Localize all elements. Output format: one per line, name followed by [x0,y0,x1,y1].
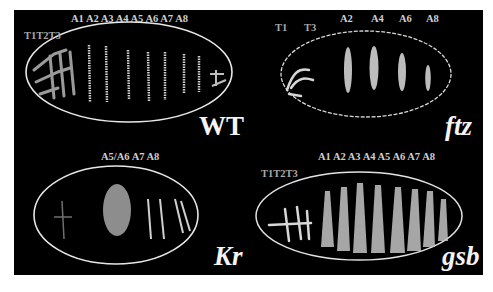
genotype-label: gsb [442,243,480,270]
panel-kr: A5/A6 A7 A8 Kr [14,143,248,275]
panel-ftz: T1 T3 A2 A4 A6 A8 ftz [249,10,483,142]
genotype-label: ftz [445,113,472,140]
abdominal-segment-labels: A1 A2 A3 A4 A5 A6 A7 A8 [318,151,435,162]
thoracic-label-t3: T3 [304,22,316,33]
embryo-figure: A1 A2 A3 A4 A5 A6 A7 A8 T1T2T3 WT T1 T3 … [14,10,483,275]
abdominal-label-a4: A4 [371,13,384,24]
panel-gsb: A1 A2 A3 A4 A5 A6 A7 A8 T1T2T3 gsb [249,143,483,275]
genotype-label: Kr [214,243,243,270]
genotype-label: WT [199,113,244,140]
embryo-kr-image [14,143,248,275]
thoracic-label-t1: T1 [275,22,287,33]
abdominal-label-a8: A8 [426,13,439,24]
thoracic-segment-labels: T1T2T3 [261,168,298,179]
abdominal-label-a6: A6 [399,13,412,24]
abdominal-segment-labels: A1 A2 A3 A4 A5 A6 A7 A8 [71,13,188,24]
abdominal-segment-labels: A5/A6 A7 A8 [101,151,159,162]
abdominal-label-a2: A2 [340,13,353,24]
panel-wt: A1 A2 A3 A4 A5 A6 A7 A8 T1T2T3 WT [14,10,248,142]
thoracic-segment-labels: T1T2T3 [24,30,61,41]
